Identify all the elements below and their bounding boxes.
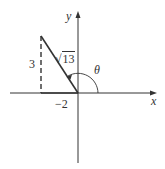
x-axis-label: x [151,95,156,107]
hypotenuse-radicand: 13 [62,51,75,65]
angle-label: θ [94,64,100,76]
sqrt-symbol-icon: √ [55,52,62,66]
coordinate-diagram [0,0,165,169]
y-axis-label: y [66,10,71,22]
x-axis [10,91,157,96]
y-axis-arrow-icon [76,11,81,18]
horizontal-leg-label: −2 [55,98,68,110]
hypotenuse-label: √13 [55,51,75,65]
vertical-leg-label: 3 [29,58,35,70]
y-axis [76,11,81,163]
